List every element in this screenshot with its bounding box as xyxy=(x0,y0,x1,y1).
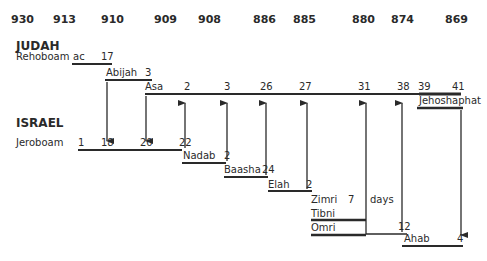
king-name: Abijah xyxy=(106,68,137,78)
year-tick: 18 xyxy=(101,138,114,148)
reign-end: 2 xyxy=(306,180,312,190)
king-name: Rehoboam xyxy=(16,52,69,62)
year-tick: 20 xyxy=(140,138,153,148)
king-name: Asa xyxy=(145,82,163,92)
year-tick: 2 xyxy=(184,82,190,92)
reign-end: 4 xyxy=(457,234,463,244)
year-tick: 38 xyxy=(397,82,410,92)
reign-start: ac xyxy=(73,52,85,62)
reign-end: 41 xyxy=(452,82,465,92)
king-name: Elah xyxy=(268,180,290,190)
year-tick: 22 xyxy=(179,138,192,148)
king-name: Nadab xyxy=(183,151,215,161)
year-tick: 1 xyxy=(78,138,84,148)
reign-start: 39 xyxy=(418,82,431,92)
year-tick: 26 xyxy=(260,82,273,92)
reign-end: 12 xyxy=(398,222,411,232)
reign-unit: days xyxy=(370,195,394,205)
king-name: Baasha xyxy=(224,165,261,175)
king-name: Ahab xyxy=(404,234,430,244)
king-name: Zimri xyxy=(311,195,337,205)
king-name: Tibni xyxy=(311,209,335,219)
reign-end: 17 xyxy=(101,52,114,62)
reign-end: 24 xyxy=(262,165,275,175)
reign-end: 2 xyxy=(224,151,230,161)
year-tick: 3 xyxy=(224,82,230,92)
israel-heading: ISRAEL xyxy=(16,116,63,130)
king-name: Jehoshaphat xyxy=(419,96,481,106)
year-tick: 27 xyxy=(299,82,312,92)
year-tick: 31 xyxy=(358,82,371,92)
king-name: Jeroboam xyxy=(16,138,63,148)
king-name: Omri xyxy=(311,223,336,233)
timeline-lines xyxy=(0,0,487,261)
reign-end: 7 xyxy=(348,195,354,205)
reign-end: 3 xyxy=(145,68,151,78)
